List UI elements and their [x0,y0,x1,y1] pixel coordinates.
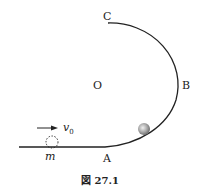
label-c: C [103,11,111,22]
label-a: A [103,153,111,164]
arrow-head-icon [51,126,58,131]
initial-ball-dashed [46,136,58,148]
diagram-canvas [0,0,200,195]
figure-caption: 図 27.1 [0,172,200,187]
label-v0: v0 [63,122,74,136]
label-b: B [182,80,190,91]
v-subscript: 0 [69,128,73,136]
ball [138,123,150,135]
label-o: O [93,80,102,91]
label-m: m [45,151,55,162]
